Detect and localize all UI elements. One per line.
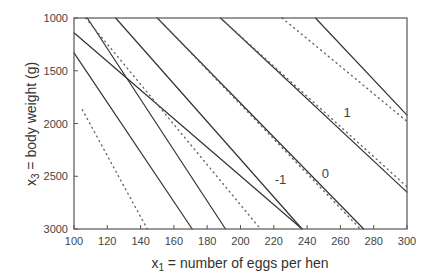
x-tick-label: 220 bbox=[265, 235, 283, 247]
x-tick-label: 180 bbox=[198, 235, 216, 247]
y-tick-label: 3000 bbox=[44, 223, 68, 235]
y-tick-label: 1000 bbox=[44, 12, 68, 24]
solid-contour-line bbox=[315, 18, 407, 115]
x-tick-label: 140 bbox=[131, 235, 149, 247]
chart: 100120140160180200220240260280300 100015… bbox=[0, 0, 437, 280]
plot-lines bbox=[74, 18, 407, 229]
x-tick-label: 280 bbox=[365, 235, 383, 247]
contour-value-label: -1 bbox=[275, 172, 287, 187]
dotted-contour-line bbox=[157, 18, 360, 229]
solid-contour-line bbox=[116, 18, 302, 229]
plot-frame bbox=[74, 18, 407, 229]
y-tick-label: 2000 bbox=[44, 118, 68, 130]
x-tick-label: 240 bbox=[298, 235, 316, 247]
x-axis-title: x1 = number of eggs per hen bbox=[151, 255, 328, 273]
solid-contour-line bbox=[87, 18, 225, 229]
line-labels: 10-1 bbox=[275, 105, 351, 186]
y-tick-label: 2500 bbox=[44, 170, 68, 182]
dotted-contour-line bbox=[86, 18, 261, 229]
dotted-contour-line bbox=[82, 110, 147, 229]
contour-value-label: 1 bbox=[343, 105, 350, 120]
x-tick-label: 200 bbox=[231, 235, 249, 247]
y-tick-label: 1500 bbox=[44, 65, 68, 77]
contour-value-label: 0 bbox=[322, 166, 329, 181]
x-tick-label: 160 bbox=[165, 235, 183, 247]
y-axis: 10001500200025003000 bbox=[44, 12, 78, 235]
y-axis-title: x3 = body weight (g) bbox=[23, 62, 41, 186]
x-tick-label: 300 bbox=[398, 235, 416, 247]
x-tick-label: 120 bbox=[98, 235, 116, 247]
x-tick-label: 100 bbox=[65, 235, 83, 247]
x-tick-label: 260 bbox=[331, 235, 349, 247]
